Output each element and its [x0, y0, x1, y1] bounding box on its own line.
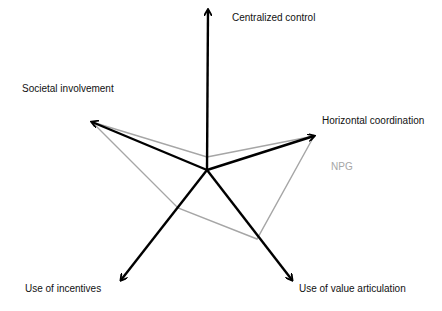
axis-label-use-of-incentives: Use of incentives — [25, 283, 101, 294]
axis-arrow-use-of-incentives — [121, 170, 207, 280]
axis-arrow-centralized-control — [207, 10, 208, 170]
series-label-npg: NPG — [331, 161, 353, 172]
axis-label-centralized-control: Centralized control — [232, 12, 315, 23]
axis-label-use-of-value-articulation: Use of value articulation — [299, 283, 406, 294]
axis-label-horizontal-coordination: Horizontal coordination — [322, 115, 424, 126]
diagram-canvas — [0, 0, 442, 311]
axis-label-societal-involvement: Societal involvement — [22, 83, 114, 94]
npg-series-polygon — [92, 122, 314, 239]
axes-group — [92, 10, 314, 280]
axis-arrow-societal-involvement — [92, 122, 207, 170]
